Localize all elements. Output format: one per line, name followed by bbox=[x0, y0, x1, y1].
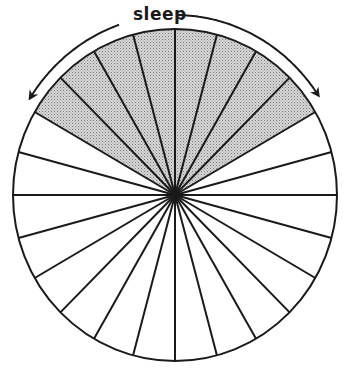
sector-divider-lines bbox=[13, 29, 337, 361]
sleep-label: sleep bbox=[133, 4, 187, 24]
sector-divider-line bbox=[19, 195, 176, 238]
sector-divider-line bbox=[175, 195, 332, 238]
day-clock-diagram: sleep bbox=[0, 0, 344, 370]
sector-divider-line bbox=[175, 195, 217, 355]
sector-divider-line bbox=[133, 195, 175, 355]
